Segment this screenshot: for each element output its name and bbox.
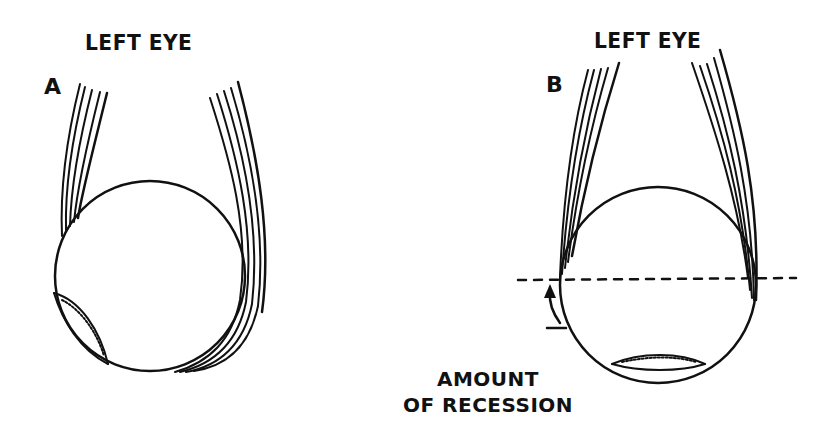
arrow-head-icon	[544, 284, 556, 298]
eyeball-b	[560, 187, 756, 383]
caption-line-2: OF RECESSION	[398, 392, 578, 418]
panel-a-letter: A	[44, 74, 62, 99]
cornea-b	[612, 355, 705, 370]
cornea-a	[54, 293, 108, 364]
panel-b-title: LEFT EYE	[594, 28, 701, 53]
muscle-b-right	[692, 50, 757, 300]
caption-line-1: AMOUNT	[398, 366, 578, 392]
panel-b-letter: B	[546, 72, 563, 97]
muscle-a-right	[175, 82, 265, 372]
muscle-a-left	[62, 84, 107, 236]
recession-caption: AMOUNT OF RECESSION	[398, 366, 578, 418]
eyeball-a	[55, 181, 245, 371]
panel-a-title: LEFT EYE	[85, 30, 192, 55]
